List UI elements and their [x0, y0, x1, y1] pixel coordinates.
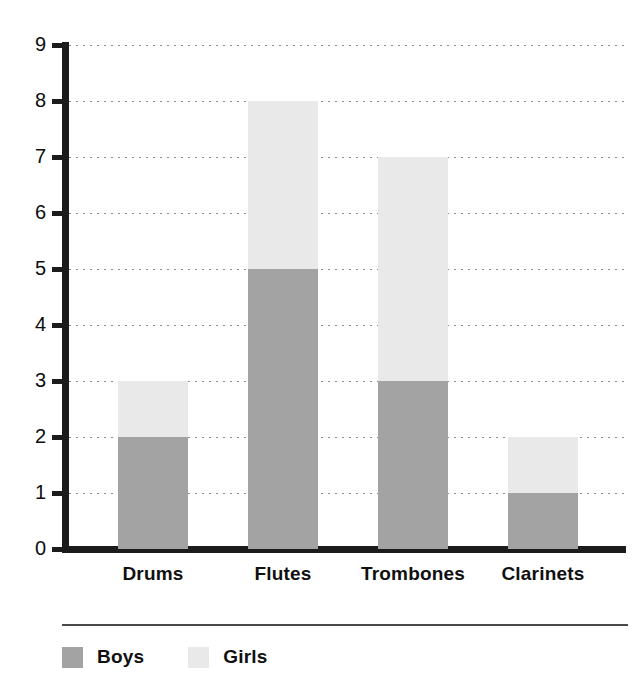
y-tick-label: 7 — [0, 146, 46, 166]
chart-legend: BoysGirls — [62, 644, 312, 670]
y-tick-label: 3 — [0, 370, 46, 390]
bar-segment-girls[interactable] — [118, 381, 188, 437]
y-tick-label: 9 — [0, 34, 46, 54]
y-tick-label: 5 — [0, 258, 46, 278]
y-tick-label: 4 — [0, 314, 46, 334]
legend-label: Girls — [223, 646, 267, 668]
legend-divider — [62, 624, 628, 626]
legend-swatch-girls — [188, 647, 209, 668]
bar-segment-boys[interactable] — [378, 381, 448, 549]
legend-item-boys[interactable]: Boys — [62, 646, 144, 668]
bar-segment-girls[interactable] — [378, 157, 448, 381]
category-label-clarinets: Clarinets — [463, 563, 623, 585]
y-tick-label: 0 — [0, 538, 46, 558]
y-tick-label: 6 — [0, 202, 46, 222]
bar-segment-girls[interactable] — [508, 437, 578, 493]
legend-label: Boys — [97, 646, 144, 668]
bar-segment-girls[interactable] — [248, 101, 318, 269]
bar-group[interactable] — [118, 45, 188, 549]
bar-group[interactable] — [248, 45, 318, 549]
bar-group[interactable] — [508, 45, 578, 549]
stacked-bar-chart: 9876543210 DrumsFlutesTrombonesClarinets… — [0, 0, 644, 695]
bar-segment-boys[interactable] — [508, 493, 578, 549]
plot-area — [62, 45, 625, 549]
y-tick-label: 8 — [0, 90, 46, 110]
legend-swatch-boys — [62, 647, 83, 668]
legend-item-girls[interactable]: Girls — [188, 646, 267, 668]
bar-segment-boys[interactable] — [118, 437, 188, 549]
bar-segment-boys[interactable] — [248, 269, 318, 549]
y-tick-label: 1 — [0, 482, 46, 502]
y-tick-label: 2 — [0, 426, 46, 446]
bar-group[interactable] — [378, 45, 448, 549]
